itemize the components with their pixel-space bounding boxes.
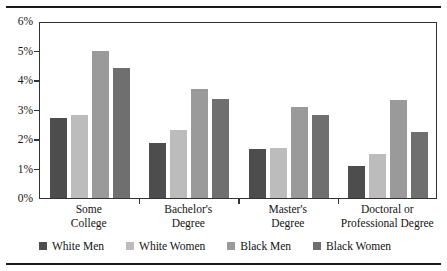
y-axis-tick-label: 5% (0, 46, 33, 58)
y-axis-tick-mark (34, 110, 39, 112)
bar (149, 143, 166, 198)
y-axis-tick-label: 6% (0, 16, 33, 28)
bar (50, 118, 67, 198)
legend-label: Black Women (326, 240, 391, 252)
legend-item: White Men (39, 240, 104, 252)
legend-label: White Men (52, 240, 104, 252)
bar-group (249, 23, 329, 198)
bar (291, 107, 308, 198)
x-axis-category-label-line: Professional Degree (338, 217, 438, 231)
x-axis-category-label: Master'sDegree (238, 203, 338, 230)
chart-legend: White MenWhite WomenBlack MenBlack Women (39, 238, 439, 254)
x-axis-category-label-line: Doctoral or (338, 203, 438, 217)
bar (170, 130, 187, 198)
x-axis-category-label: SomeCollege (39, 203, 139, 230)
bar-group (348, 23, 428, 198)
legend-swatch-icon (126, 242, 134, 250)
bar (249, 149, 266, 198)
legend-swatch-icon (39, 242, 47, 250)
y-axis-tick-label: 2% (0, 134, 33, 146)
bar-chart-figure: 0%1%2%3%4%5%6% White MenWhite WomenBlack… (0, 0, 447, 271)
y-axis-tick-mark (34, 169, 39, 171)
top-rule (6, 6, 441, 8)
x-axis-category-label-line: Some (39, 203, 139, 217)
legend-label: Black Men (240, 240, 291, 252)
y-axis-tick-label: 3% (0, 105, 33, 117)
x-axis-category-label: Bachelor'sDegree (139, 203, 239, 230)
legend-swatch-icon (313, 242, 321, 250)
x-axis-category-label-line: College (39, 217, 139, 231)
bottom-rule (6, 263, 441, 265)
legend-label: White Women (139, 240, 205, 252)
x-axis-category-label-line: Master's (238, 203, 338, 217)
y-axis-tick-mark (34, 51, 39, 53)
bar-group (50, 23, 130, 198)
bar (348, 166, 365, 198)
bar (212, 99, 229, 198)
legend-item: White Women (126, 240, 205, 252)
x-axis-category-label: Doctoral orProfessional Degree (338, 203, 438, 230)
legend-item: Black Men (227, 240, 291, 252)
y-axis-tick-label: 1% (0, 164, 33, 176)
bar (191, 89, 208, 198)
plot-area (39, 22, 437, 199)
legend-swatch-icon (227, 242, 235, 250)
y-axis-tick-mark (34, 139, 39, 141)
bar (369, 154, 386, 198)
x-axis-category-label-line: Degree (238, 217, 338, 231)
bar (113, 68, 130, 198)
bar (390, 100, 407, 198)
y-axis-tick-label: 0% (0, 193, 33, 205)
bar (411, 132, 428, 198)
bar (270, 148, 287, 198)
bar (92, 51, 109, 199)
y-axis-tick-label: 4% (0, 75, 33, 87)
y-axis-tick-mark (34, 80, 39, 82)
bar-group (149, 23, 229, 198)
legend-item: Black Women (313, 240, 391, 252)
x-axis-category-label-line: Bachelor's (139, 203, 239, 217)
bar (71, 115, 88, 198)
x-axis-category-label-line: Degree (139, 217, 239, 231)
bar (312, 115, 329, 198)
